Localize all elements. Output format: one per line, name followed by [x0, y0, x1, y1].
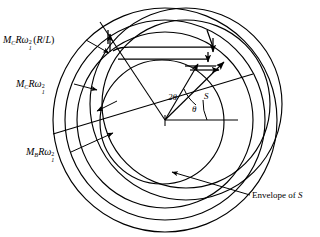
figure-container: MCRω21(R/L) MCRω21 MBRω21 Envelope of S …: [0, 0, 320, 237]
label-angle-two-theta: 2θ: [168, 93, 177, 102]
label-mb-r-omega: MBRω21: [26, 147, 56, 158]
label-envelope-of-s: Envelope of S: [252, 191, 302, 200]
offset-envelope-mid: [102, 20, 270, 188]
leader-inner-circle: [97, 101, 117, 111]
envelope-text: Envelope of: [252, 190, 296, 200]
label-mc-r-omega: MCRω21: [16, 79, 46, 90]
label-angle-theta: θ: [192, 105, 196, 114]
angle-arc-theta: [203, 100, 207, 120]
inner-circle: [100, 60, 224, 184]
leader-mc-rl: [86, 40, 109, 53]
label-vector-s: S: [204, 92, 209, 101]
radial-line-long-lower-left: [53, 74, 253, 134]
offset-envelope-large: [90, 8, 282, 200]
leader-mc: [74, 84, 97, 90]
label-mc-r-omega-rl: MCRω21(R/L): [3, 35, 54, 46]
envelope-symbol-s: S: [298, 190, 303, 200]
connector-bar-long-top: [113, 47, 213, 51]
leader-envelope: [172, 172, 250, 195]
